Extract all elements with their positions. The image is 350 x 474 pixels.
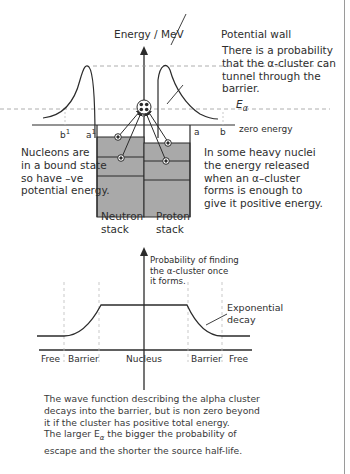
marker-b: b (220, 127, 226, 138)
positive-energy-note: In some heavy nuclei the energy released… (204, 146, 323, 210)
probability-axis-label: Probability of finding the α-cluster onc… (150, 255, 239, 287)
energy-axis-arrow-icon (140, 46, 148, 55)
energy-alpha-label: Eα (236, 98, 248, 116)
energy-axis-label: Energy / MeV (114, 28, 184, 41)
neutron-stack-label: Neutron stack (101, 210, 143, 236)
bound-state-note: Nucleons are in a bound state so have –v… (21, 146, 109, 197)
marker-a: a (194, 127, 200, 138)
potential-wall-label: Potential wall (221, 28, 291, 41)
proton-stack-label: Proton stack (156, 210, 190, 236)
zero-energy-label: zero energy (239, 124, 293, 135)
region-barrier-left: Barrier (68, 354, 99, 365)
region-barrier-right: Barrier (191, 354, 222, 365)
tunnel-note: There is a probability that the α-cluste… (222, 44, 336, 95)
caption-paragraph: The wave function describing the alpha c… (44, 393, 284, 457)
marker-a1: a1 (86, 127, 96, 141)
marker-b1: b1 (60, 127, 70, 141)
exponential-decay-label: Exponential decay (227, 302, 283, 325)
probability-axis-arrow-icon (140, 247, 148, 256)
region-free-left: Free (41, 354, 60, 365)
alpha-cluster-icon (137, 100, 151, 114)
region-nucleus: Nucleus (126, 354, 162, 365)
region-free-right: Free (229, 354, 248, 365)
